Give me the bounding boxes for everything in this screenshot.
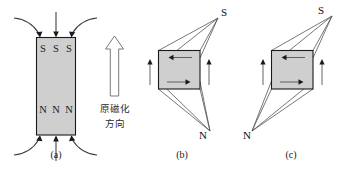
magnet-square-c <box>272 51 314 90</box>
magnetization-diagram: S S S N N N (a) 原磁化 方向 <box>0 0 340 172</box>
field-line-bottom-left-icon <box>14 140 39 155</box>
field-line-top-right-icon <box>73 18 98 33</box>
caption-c: (c) <box>285 149 296 161</box>
pole-letter-n1: N <box>39 104 47 115</box>
pole-line-s-inner-b <box>200 18 218 58</box>
pole-letter-s2: S <box>53 43 59 54</box>
field-line-bottom-right-icon <box>73 140 98 155</box>
magnetization-annotation: 原磁化 方向 <box>100 36 130 129</box>
side-arrowhead-right-c <box>319 59 324 65</box>
pole-line-s-inner-c <box>313 16 332 58</box>
pole-letter-n3: N <box>65 104 73 115</box>
pole-letter-n2: N <box>52 104 60 115</box>
caption-b: (b) <box>176 149 188 161</box>
field-arrowhead-top-left-icon <box>36 32 42 38</box>
pole-label-s-c: S <box>318 4 324 16</box>
field-arrowhead-bottom-left-icon <box>36 135 42 141</box>
figure-root: S S S N N N (a) 原磁化 方向 <box>0 0 340 172</box>
panel-a: S S S N N N (a) <box>14 12 97 161</box>
panel-b: S N (b) <box>147 6 227 161</box>
annotation-line-2: 方向 <box>105 118 125 129</box>
side-arrowhead-right-b <box>206 59 211 65</box>
side-arrow-right-b <box>206 59 211 85</box>
caption-a: (a) <box>50 149 61 161</box>
field-arrowhead-bottom-center-icon <box>53 135 59 141</box>
field-line-top-left-icon <box>14 18 39 33</box>
magnet-square-b <box>159 51 201 90</box>
pole-letter-s3: S <box>66 43 72 54</box>
field-lines-top-a <box>14 12 97 38</box>
pole-label-n-c: N <box>243 129 251 141</box>
field-arrowhead-bottom-right-icon <box>69 135 75 141</box>
up-arrow-icon <box>106 36 124 96</box>
field-arrowhead-top-center-icon <box>53 31 59 37</box>
side-arrow-left-c <box>260 59 265 85</box>
side-arrowhead-left-c <box>260 59 265 65</box>
pole-line-n-lower-c <box>252 89 313 131</box>
side-arrow-right-c <box>319 59 324 85</box>
pole-label-s-b: S <box>221 6 227 18</box>
field-arrowhead-top-right-icon <box>69 32 75 38</box>
pole-label-n-b: N <box>199 129 207 141</box>
pole-line-n-lower-b <box>159 89 211 131</box>
panel-c: S N (c) <box>243 4 332 161</box>
pole-letter-s1: S <box>40 43 46 54</box>
annotation-line-1: 原磁化 <box>100 103 130 114</box>
side-arrowhead-left-b <box>147 59 152 65</box>
side-arrow-left-b <box>147 59 152 85</box>
